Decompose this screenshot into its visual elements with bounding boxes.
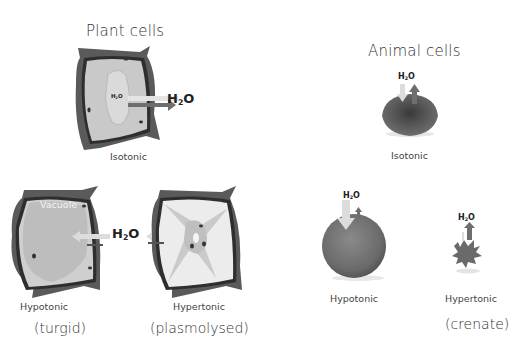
plant-hypotonic-label: Hypotonic xyxy=(20,301,68,312)
animal-hypertonic-label: Hypertonic xyxy=(445,293,497,304)
red-blood-cell-icon xyxy=(374,84,446,140)
plant-shared-h2o: H2O xyxy=(112,226,139,242)
crenated-cell-icon xyxy=(448,222,488,274)
plant-hypertonic-label: Hypertonic xyxy=(173,301,225,312)
plant-isotonic-h2o-inner: H2O xyxy=(111,93,123,100)
plant-hypertonic-cell-icon xyxy=(146,186,246,300)
swollen-cell-icon xyxy=(318,200,390,282)
plant-hypertonic-state: (plasmolysed) xyxy=(150,320,249,336)
plant-hypertonic-cell xyxy=(146,186,246,300)
plant-isotonic-h2o-outer: H2O xyxy=(167,91,194,107)
animal-hypotonic-cell xyxy=(318,200,390,282)
animal-isotonic-cell xyxy=(374,84,446,140)
plant-cells-title: Plant cells xyxy=(86,22,164,40)
animal-hypertonic-state: (crenate) xyxy=(445,316,509,332)
animal-isotonic-h2o: H2O xyxy=(398,72,415,81)
vacuole-label: Vacuole xyxy=(40,199,77,210)
animal-hypotonic-label: Hypotonic xyxy=(330,293,378,304)
animal-cells-title: Animal cells xyxy=(368,42,461,60)
animal-hypotonic-h2o: H2O xyxy=(343,191,360,200)
animal-hypertonic-cell xyxy=(448,222,488,274)
animal-isotonic-label: Isotonic xyxy=(391,150,428,161)
plant-isotonic-label: Isotonic xyxy=(110,151,147,162)
plant-hypotonic-state: (turgid) xyxy=(34,320,86,336)
animal-hypertonic-h2o: H2O xyxy=(458,213,475,222)
